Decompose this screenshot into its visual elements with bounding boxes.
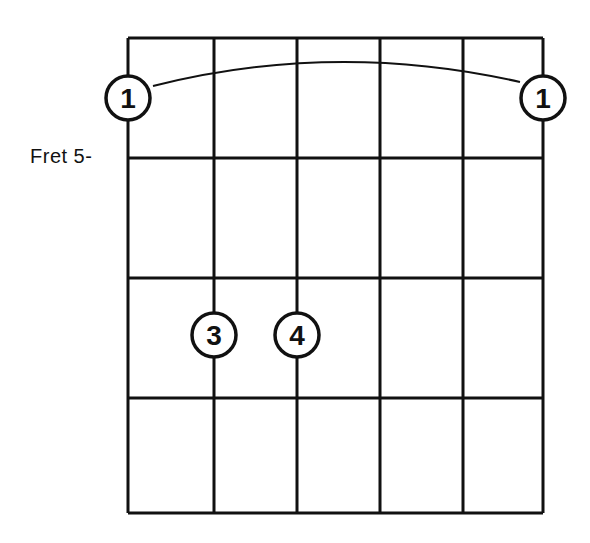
fretboard-grid (128, 38, 543, 513)
finger-markers: 1134 (106, 76, 565, 357)
barre-arc (153, 62, 520, 86)
finger-number: 1 (120, 83, 136, 114)
finger-marker: 3 (192, 313, 236, 357)
finger-marker: 1 (521, 76, 565, 120)
finger-number: 3 (206, 320, 222, 351)
chord-diagram: 1134 (0, 0, 590, 543)
finger-marker: 1 (106, 76, 150, 120)
finger-number: 4 (289, 320, 305, 351)
finger-number: 1 (535, 83, 551, 114)
finger-marker: 4 (275, 313, 319, 357)
